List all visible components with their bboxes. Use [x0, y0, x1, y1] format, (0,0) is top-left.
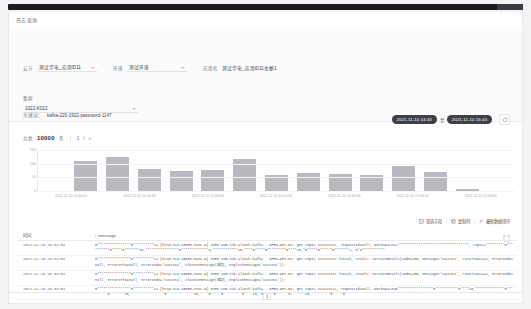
chart-plot-area: 150100500 [37, 150, 515, 192]
chart-bar-slot[interactable] [38, 150, 70, 191]
filter-value-appname: 测试华电_应用ID11金额1 [222, 65, 276, 71]
chart-bar-slot[interactable] [356, 150, 388, 191]
refresh-button[interactable] [499, 114, 510, 125]
chart-bar[interactable] [392, 166, 415, 191]
date-range-start[interactable]: 2021-11-10 14:43 [392, 115, 437, 124]
filter-value-cloud: 测试华电_应用ID11 [39, 64, 81, 70]
table-row[interactable]: 2021-11-10 16:34:540****************0***… [17, 256, 517, 271]
chart-bar[interactable] [424, 172, 447, 191]
query-keyword-value: kafka-220-1922-password-1147 [47, 113, 112, 118]
chart-bar[interactable] [170, 171, 193, 191]
chart-total-label: 总数 [23, 135, 33, 141]
chart-bar[interactable] [106, 157, 129, 191]
action-copy-column-label: 复制列 [458, 218, 470, 224]
log-row-message: 0****************0**********11 [http-nio… [89, 243, 517, 254]
table-action-bar: 筛选字段 | 复制列 | 最新数据排序 [419, 218, 510, 224]
filter-label-cluster: 集群 [23, 96, 33, 101]
chart-next-arrow-icon[interactable]: » [89, 136, 92, 141]
refresh-icon [502, 117, 508, 123]
histogram-chart: 总数 10000 条 1 / » 150100500 2021-11-10 15… [9, 132, 523, 214]
log-table-header: 时间 tmessage [17, 230, 517, 241]
pagination[interactable]: 1 [17, 292, 517, 301]
log-row-message: 0****************0**********14 [http-nio… [89, 272, 517, 283]
column-header-message-label: message [98, 233, 116, 238]
log-row-time: 2021-11-10 16:34:54 [17, 272, 89, 283]
chart-bar[interactable] [201, 170, 224, 191]
query-keyword-label: 关键词： [23, 112, 43, 118]
filter-panel: 云方 测试华电_应用ID11 环境 测试环境 应用名 [9, 28, 523, 122]
chart-gridline [38, 177, 515, 178]
chart-bar-slot[interactable] [420, 150, 452, 191]
filter-field-env[interactable]: 环境 测试环境 [113, 63, 187, 72]
chart-bar[interactable] [74, 161, 97, 191]
date-range-picker[interactable]: 2021-11-10 14:43 至 2021-11-10 16:43 [392, 114, 510, 125]
action-filter-columns[interactable]: 筛选字段 [419, 218, 442, 224]
date-range-end[interactable]: 2021-11-10 16:43 [447, 115, 492, 124]
chart-bar-slot[interactable] [102, 150, 134, 191]
chart-x-tick: 2021-11-10 15:04:00 [123, 194, 155, 198]
filter-field-cluster[interactable]: 集群 1022-K022 [23, 86, 138, 113]
chart-page-separator: / [83, 136, 84, 141]
copy-icon [451, 219, 456, 224]
chart-bar-slot[interactable] [483, 150, 515, 191]
chart-x-tick: 2021-11-10 15:44:00 [55, 194, 87, 198]
chart-total-value: 10000 [37, 135, 55, 141]
chart-bar-slot[interactable] [133, 150, 165, 191]
column-header-message-bullet: t [95, 233, 96, 238]
pagination-current-page[interactable]: 1 [263, 293, 271, 300]
chart-bar-slot[interactable] [197, 150, 229, 191]
chart-bar-slot[interactable] [324, 150, 356, 191]
column-header-time: 时间 [17, 232, 89, 238]
chart-toolbar: 总数 10000 条 1 / » [23, 135, 91, 141]
topbar-accent [497, 4, 523, 10]
action-sort-latest-label: 最新数据排序 [486, 218, 510, 224]
query-keyword-row[interactable]: 关键词： kafka-220-1922-password-1147 [23, 112, 112, 118]
filter-value-cluster: 1022-K022 [25, 106, 47, 111]
filter-select-cloud[interactable]: 测试华电_应用ID11 [37, 63, 97, 72]
action-sort-latest[interactable]: 最新数据排序 [479, 218, 510, 224]
filter-field-cloud[interactable]: 云方 测试华电_应用ID11 [23, 63, 97, 72]
chart-y-tick: 150 [30, 148, 36, 152]
chart-x-tick: 2021-11-10 15:04:00 [260, 194, 292, 198]
chart-x-tick: 2021-11-10 15:04:00 [192, 194, 224, 198]
chart-bar-slot[interactable] [261, 150, 293, 191]
chart-x-tick: 2021-11-10 15:04:00 [465, 194, 497, 198]
filter-field-appname: 应用名 测试华电_应用ID11金额1 [203, 63, 276, 72]
chart-bar-slot[interactable] [165, 150, 197, 191]
filter-label-env: 环境 [113, 65, 123, 71]
chart-y-tick: 0 [34, 189, 36, 193]
chart-bar-slot[interactable] [70, 150, 102, 191]
chart-bar-slot[interactable] [388, 150, 420, 191]
chevron-down-icon [181, 67, 185, 69]
chart-x-tick: 2021-11-10 15:04:00 [328, 194, 360, 198]
chevron-down-icon [91, 67, 95, 69]
page-container: 日志查询 云方 测试华电_应用ID11 环境 测试环境 [8, 12, 523, 304]
chart-x-axis: 2021-11-10 15:44:002021-11-10 15:04:0020… [37, 194, 515, 202]
filter-row-primary: 云方 测试华电_应用ID11 环境 测试环境 应用名 [23, 63, 292, 72]
chart-bar[interactable] [138, 169, 161, 191]
table-row[interactable]: 2021-11-10 16:34:540****************0***… [17, 241, 517, 256]
action-copy-column[interactable]: 复制列 [451, 218, 470, 224]
chevron-down-icon [132, 108, 136, 110]
filter-label-cloud: 云方 [23, 65, 33, 71]
log-row-time: 2021-11-10 16:34:54 [17, 243, 89, 254]
date-range-separator: 至 [440, 117, 444, 123]
log-row-message: 0****************0**********11 [http-nio… [89, 257, 517, 268]
chart-gridline [38, 164, 515, 165]
action-filter-columns-label: 筛选字段 [426, 218, 442, 224]
chart-bar-slot[interactable] [229, 150, 261, 191]
filter-select-env[interactable]: 测试环境 [127, 63, 187, 72]
log-row-time: 2021-11-10 16:34:54 [17, 257, 89, 268]
chart-bar-slot[interactable] [292, 150, 324, 191]
chart-bar[interactable] [297, 173, 320, 191]
column-icon [419, 219, 424, 224]
chart-gridline [38, 191, 515, 192]
window-topbar [8, 4, 523, 10]
table-row[interactable]: 2021-11-10 16:34:540****************0***… [17, 271, 517, 286]
sort-icon [479, 219, 484, 224]
filter-value-env: 测试环境 [129, 64, 149, 70]
action-divider-2: | [474, 219, 475, 224]
chart-y-tick: 50 [32, 175, 36, 179]
filter-label-appname: 应用名 [203, 65, 218, 71]
chart-bar-slot[interactable] [451, 150, 483, 191]
